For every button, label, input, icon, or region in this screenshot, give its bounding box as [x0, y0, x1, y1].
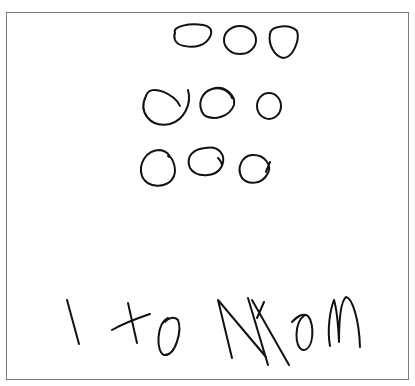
glyph-m	[329, 297, 360, 347]
circle-row-2	[143, 88, 281, 125]
drawing-canvas	[0, 0, 415, 386]
circle-row-1	[174, 24, 297, 58]
glyph-1	[67, 300, 79, 344]
glyph-o2	[292, 315, 312, 350]
handwritten-text	[67, 297, 360, 365]
glyph-M	[218, 298, 289, 365]
circle	[200, 88, 234, 118]
glyph-t	[112, 303, 150, 343]
circle	[240, 155, 270, 183]
circle	[270, 26, 298, 58]
circle-row-3	[141, 147, 270, 185]
circle	[143, 90, 189, 125]
glyph-o	[158, 318, 179, 355]
circle	[174, 24, 211, 46]
circle	[224, 26, 256, 54]
circle	[189, 147, 224, 175]
circle	[141, 150, 175, 186]
circle	[257, 93, 281, 119]
